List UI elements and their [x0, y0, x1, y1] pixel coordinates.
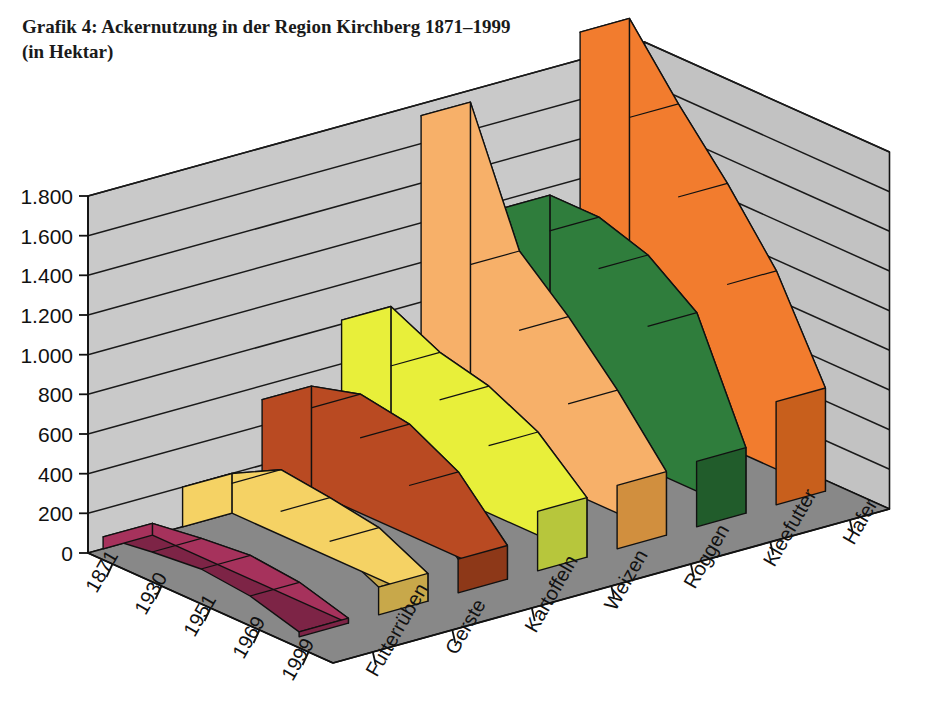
y-tick-label: 1.200: [20, 304, 73, 327]
year-label-1999: 1999: [277, 634, 318, 684]
year-label-1969: 1969: [228, 612, 269, 662]
series-end-cap: [617, 472, 666, 549]
y-tick-label: 600: [38, 423, 73, 446]
y-tick-label: 1.800: [20, 185, 73, 208]
chart-page: Grafik 4: Ackernutzung in der Region Kir…: [0, 0, 948, 719]
y-tick-label: 400: [38, 463, 73, 486]
y-tick-label: 1.400: [20, 264, 73, 287]
y-tick-label: 1.600: [20, 225, 73, 248]
series-end-cap: [697, 448, 746, 527]
y-tick-label: 200: [38, 502, 73, 525]
y-tick-label: 800: [38, 383, 73, 406]
year-label-1951: 1951: [179, 590, 220, 640]
chart-3d-area: 02004006008001.0001.2001.4001.6001.800 1…: [0, 0, 948, 719]
y-tick-label: 0: [61, 542, 73, 565]
year-label-1930: 1930: [130, 568, 171, 618]
y-tick-label: 1.000: [20, 344, 73, 367]
y-axis: 02004006008001.0001.2001.4001.6001.800: [20, 185, 88, 565]
